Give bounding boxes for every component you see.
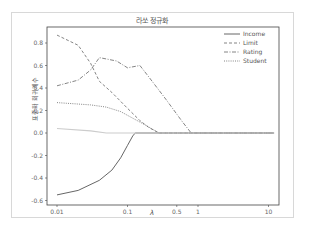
legend-item-income: Income [224, 29, 278, 38]
legend-line-icon [224, 41, 240, 45]
series-line-others [57, 129, 274, 134]
y-tick-label: 0.0 [33, 129, 43, 136]
legend-label: Limit [243, 39, 258, 46]
series-line-rating [57, 58, 274, 133]
legend-label: Income [243, 30, 265, 37]
legend-item-student: Student [224, 56, 278, 65]
x-tick-label: 0.1 [123, 208, 133, 215]
legend-line-icon [224, 32, 240, 36]
x-tick-label: 1 [196, 208, 200, 215]
legend-item-limit: Limit [224, 38, 278, 47]
y-tick-label: -0.4 [31, 174, 43, 181]
y-tick-label: 0.6 [33, 62, 43, 69]
x-tick-label: 0.5 [172, 208, 182, 215]
y-tick-label: -0.2 [31, 152, 43, 159]
legend-line-icon [224, 59, 240, 63]
x-tick-label: 10 [265, 208, 273, 215]
legend: IncomeLimitRatingStudent [224, 29, 278, 65]
legend-item-rating: Rating [224, 47, 278, 56]
series-line-student [57, 103, 274, 133]
y-tick-label: 0.8 [33, 39, 43, 46]
legend-label: Student [243, 57, 267, 64]
series-line-income [57, 133, 274, 195]
y-tick-label: 0.2 [33, 107, 43, 114]
y-tick-label: 0.4 [33, 84, 43, 91]
legend-label: Rating [243, 48, 262, 55]
x-tick-label: 0.01 [50, 208, 64, 215]
y-tick-label: -0.6 [31, 197, 43, 204]
legend-line-icon [224, 50, 240, 54]
